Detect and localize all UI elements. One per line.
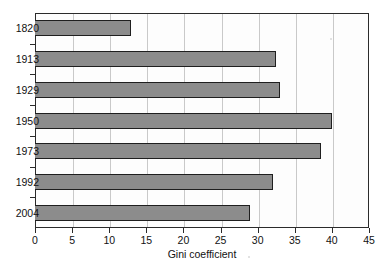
y-tick-mark bbox=[30, 167, 35, 168]
x-axis-title: Gini coefficient bbox=[35, 248, 369, 260]
scan-speck bbox=[248, 256, 250, 258]
x-tick-label-25: 25 bbox=[206, 234, 236, 246]
bar-1929[interactable] bbox=[35, 82, 280, 98]
x-tick-mark bbox=[72, 228, 73, 233]
bar-1913[interactable] bbox=[35, 51, 276, 67]
x-tick-mark bbox=[109, 228, 110, 233]
bar-row bbox=[35, 20, 369, 36]
y-tick-mark bbox=[30, 105, 35, 106]
y-tick-mark bbox=[30, 136, 35, 137]
y-tick-mark bbox=[30, 197, 35, 198]
scan-speck bbox=[330, 38, 332, 40]
x-tick-label-35: 35 bbox=[280, 234, 310, 246]
bar-1950[interactable] bbox=[35, 113, 332, 129]
gini-coefficient-bar-chart: 1820191319291950197319922004 05101520253… bbox=[0, 0, 380, 264]
bar-2004[interactable] bbox=[35, 205, 250, 221]
x-tick-label-0: 0 bbox=[20, 234, 50, 246]
bars-layer bbox=[35, 13, 369, 228]
x-tick-mark bbox=[332, 228, 333, 233]
bar-row bbox=[35, 205, 369, 221]
x-tick-label-30: 30 bbox=[243, 234, 273, 246]
x-tick-label-20: 20 bbox=[168, 234, 198, 246]
y-tick-mark bbox=[30, 74, 35, 75]
y-tick-label-1820: 1820 bbox=[5, 22, 39, 34]
bar-row bbox=[35, 113, 369, 129]
y-tick-label-2004: 2004 bbox=[5, 207, 39, 219]
x-tick-mark bbox=[369, 228, 370, 233]
y-tick-label-1992: 1992 bbox=[5, 176, 39, 188]
x-tick-mark bbox=[295, 228, 296, 233]
bar-row bbox=[35, 51, 369, 67]
x-tick-mark bbox=[221, 228, 222, 233]
bar-row bbox=[35, 143, 369, 159]
x-tick-label-5: 5 bbox=[57, 234, 87, 246]
bar-row bbox=[35, 82, 369, 98]
x-tick-mark bbox=[258, 228, 259, 233]
x-tick-label-15: 15 bbox=[131, 234, 161, 246]
x-tick-label-40: 40 bbox=[317, 234, 347, 246]
y-tick-label-1950: 1950 bbox=[5, 115, 39, 127]
bar-row bbox=[35, 174, 369, 190]
x-tick-label-10: 10 bbox=[94, 234, 124, 246]
x-tick-mark bbox=[183, 228, 184, 233]
bar-1820[interactable] bbox=[35, 20, 131, 36]
y-tick-label-1929: 1929 bbox=[5, 84, 39, 96]
x-tick-label-45: 45 bbox=[354, 234, 380, 246]
bar-1973[interactable] bbox=[35, 143, 321, 159]
y-tick-mark bbox=[30, 44, 35, 45]
y-tick-label-1913: 1913 bbox=[5, 53, 39, 65]
x-tick-mark bbox=[146, 228, 147, 233]
bar-1992[interactable] bbox=[35, 174, 273, 190]
x-tick-mark bbox=[35, 228, 36, 233]
y-tick-label-1973: 1973 bbox=[5, 145, 39, 157]
